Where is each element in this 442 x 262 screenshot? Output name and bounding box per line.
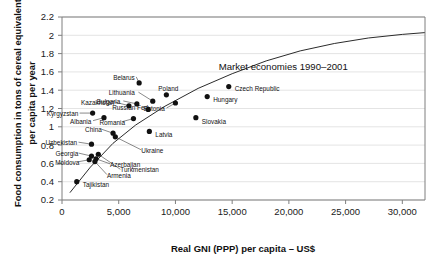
chart-container: 05,00010,00015,00020,00025,00030,000 0.2…: [0, 0, 442, 262]
x-tick-label: 5,000: [107, 206, 131, 217]
data-point: [150, 99, 155, 104]
data-point: [164, 92, 169, 97]
data-point: [205, 94, 210, 99]
y-tick-label: 1: [49, 121, 54, 132]
data-point-label: Tajikistan: [83, 181, 110, 189]
data-point: [89, 142, 94, 147]
data-point-label: Hungary: [213, 96, 238, 104]
data-point-label: Poland: [158, 85, 178, 92]
data-point-label: Romania: [99, 119, 125, 126]
x-tick-label: 25,000: [331, 206, 360, 217]
y-tick-label: 0.6: [41, 158, 54, 169]
data-point: [226, 84, 231, 89]
data-point-label: Latvia: [155, 131, 172, 138]
data-point: [74, 179, 79, 184]
data-point-label: Czech Republic: [235, 85, 281, 93]
data-point-label: Moldova: [55, 159, 80, 166]
y-tick-label: 1.4: [41, 85, 54, 96]
x-tick-label: 0: [59, 206, 64, 217]
x-tick-label: 20,000: [274, 206, 303, 217]
y-tick-label: 1.8: [41, 48, 54, 59]
data-point: [193, 115, 198, 120]
data-point-label: Azerbaijan: [110, 161, 141, 169]
label-leader-line: [115, 137, 141, 150]
y-tick-label: 1.6: [41, 66, 54, 77]
data-point: [90, 110, 95, 115]
data-point-labels: BelarusCzech RepublicPolandHungaryLithua…: [45, 74, 280, 189]
y-tick-labels: 0.20.40.60.811.21.41.61.822.2: [41, 11, 54, 205]
data-point: [113, 134, 118, 139]
x-tick-label: 10,000: [161, 206, 190, 217]
x-tick-label: 15,000: [218, 206, 247, 217]
data-point: [96, 152, 101, 157]
y-axis-title-line-2: per capita per year: [26, 0, 40, 218]
data-point: [92, 159, 97, 164]
data-point-label: Georgia: [55, 150, 78, 158]
data-point-label: Belarus: [113, 74, 135, 81]
x-tick-labels: 05,00010,00015,00020,00025,00030,000: [59, 206, 416, 217]
data-point: [137, 80, 142, 85]
y-tick-label: 2.2: [41, 11, 54, 22]
y-tick-label: 2: [49, 30, 54, 41]
y-tick-label: 0.2: [41, 194, 54, 205]
x-tick-label: 30,000: [388, 206, 417, 217]
y-tick-label: 0.4: [41, 176, 54, 187]
data-point: [87, 157, 92, 162]
x-axis-title: Real GNI (PPP) per capita – US$: [171, 243, 316, 254]
scatter-plot: 05,00010,00015,00020,00025,00030,000 0.2…: [0, 0, 442, 262]
data-point-label: Russian Fed: [112, 104, 148, 111]
data-point-label: Kazakhstan: [81, 99, 115, 106]
chart-annotation: Market economies 1990–2001: [219, 61, 348, 72]
data-point-label: Lithuania: [109, 89, 135, 96]
data-point-label: Albania: [70, 118, 92, 125]
market-economies-annotation: Market economies 1990–2001: [219, 61, 348, 72]
data-point-label: Ukraine: [141, 147, 163, 154]
data-point-label: China: [85, 126, 102, 133]
y-axis-title-line-1: Food consumption in tons of cereal equiv…: [12, 0, 26, 218]
data-point: [173, 100, 178, 105]
data-point-label: Armenia: [107, 172, 131, 179]
data-point: [147, 129, 152, 134]
data-point: [131, 116, 136, 121]
data-point-label: Uzbekistan: [45, 139, 77, 146]
data-point-label: Slovakia: [202, 118, 227, 125]
